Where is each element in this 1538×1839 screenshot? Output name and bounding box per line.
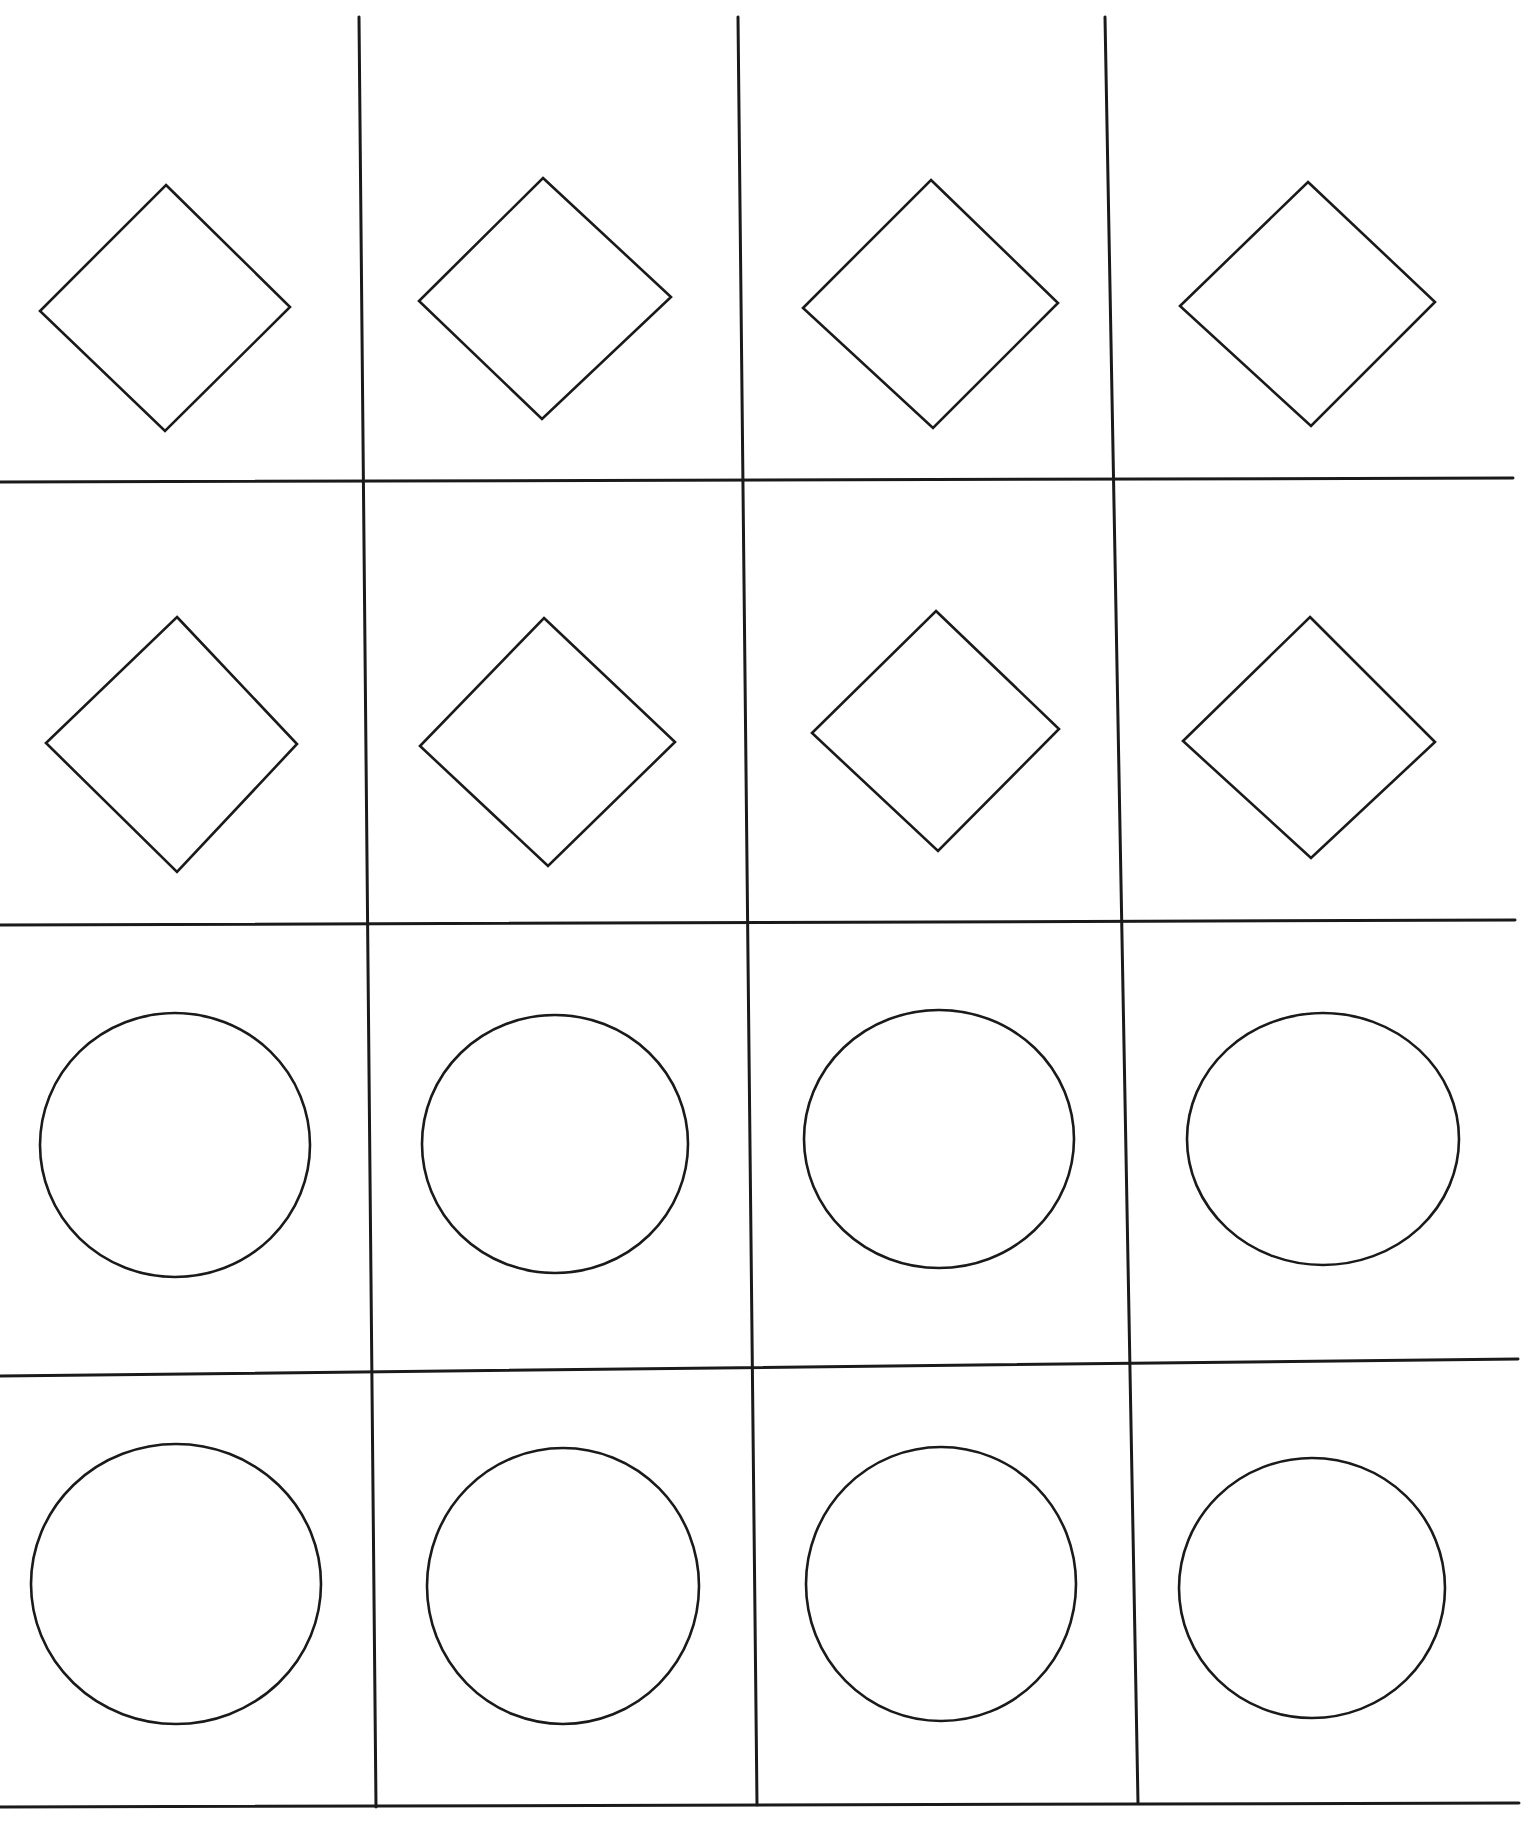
circle-icon-r4c4 <box>1179 1458 1445 1718</box>
circle-icon-r4c2 <box>427 1448 699 1724</box>
circle-icon-r3c3 <box>804 1010 1074 1268</box>
circle-icon-r3c1 <box>40 1013 310 1277</box>
circle-icon-r4c3 <box>806 1447 1076 1721</box>
vertical-grid-line-3 <box>1105 17 1138 1803</box>
circle-icon-r3c2 <box>422 1015 688 1273</box>
diamond-icon-r2c4 <box>1183 617 1435 858</box>
vertical-grid-line-2 <box>738 17 757 1805</box>
diamond-icon-r2c1 <box>46 617 297 872</box>
vertical-grid-line-1 <box>359 17 376 1807</box>
horizontal-grid-line-3 <box>0 1359 1518 1376</box>
grid-lines <box>0 17 1519 1807</box>
diamond-icon-r2c3 <box>812 611 1059 851</box>
diamond-icon-r1c1 <box>40 185 290 431</box>
circle-icon-r4c1 <box>31 1444 321 1724</box>
circle-icon-r3c4 <box>1187 1013 1459 1265</box>
horizontal-grid-line-2 <box>0 920 1515 925</box>
grid-figure <box>0 0 1538 1839</box>
diamond-icon-r1c3 <box>803 180 1058 428</box>
horizontal-grid-line-1 <box>0 478 1513 482</box>
diamond-icon-r1c2 <box>419 178 671 419</box>
horizontal-grid-line-4 <box>0 1803 1519 1807</box>
diamond-icon-r1c4 <box>1180 182 1435 426</box>
shapes <box>31 178 1459 1724</box>
diamond-icon-r2c2 <box>420 618 675 866</box>
